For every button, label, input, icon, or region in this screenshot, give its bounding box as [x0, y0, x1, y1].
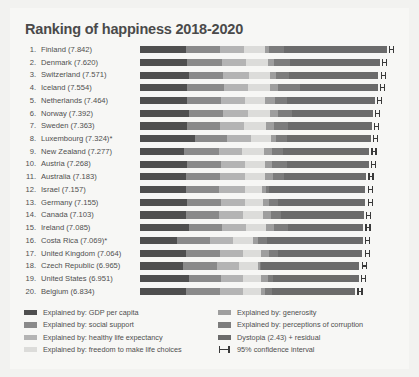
ranking-row: 8.Luxembourg (7.324)*: [10, 133, 409, 146]
bar-segment: [243, 275, 260, 282]
rank-number: 9.: [14, 147, 36, 157]
bar-segment: [140, 199, 187, 206]
chart-legend: Explained by: GDP per capitaExplained by…: [10, 307, 409, 367]
stacked-bar: [140, 224, 363, 231]
bar-segment: [245, 161, 265, 168]
confidence-interval-marker: [374, 123, 379, 130]
rank-number: 20.: [14, 287, 36, 297]
bar-segment: [140, 97, 187, 104]
bar-segment: [287, 161, 368, 168]
bar-segment: [274, 122, 288, 129]
bar-segment: [189, 110, 224, 117]
bar-container: [140, 135, 381, 142]
legend-label: Explained by: social support: [43, 319, 134, 330]
stacked-bar: [140, 288, 355, 295]
country-label: Denmark (7.620): [41, 58, 98, 68]
bar-container: [140, 275, 369, 282]
bar-segment: [210, 237, 233, 244]
bar-segment: [283, 148, 369, 155]
legend-label: Explained by: healthy life expectancy: [43, 332, 163, 343]
bar-segment: [261, 250, 270, 257]
bar-segment: [219, 186, 244, 193]
bar-segment: [223, 110, 248, 117]
confidence-interval-marker: [368, 173, 373, 180]
bar-segment: [269, 199, 278, 206]
bar-segment: [245, 97, 265, 104]
bar-segment: [251, 135, 271, 142]
ranking-row: 19.United States (6.951): [10, 273, 409, 286]
bar-segment: [186, 211, 220, 218]
stacked-bar: [140, 72, 378, 79]
bar-segment: [284, 46, 386, 53]
bar-segment: [186, 186, 219, 193]
bar-segment: [267, 237, 362, 244]
bar-segment: [289, 72, 378, 79]
bar-segment: [140, 288, 186, 295]
bar-segment: [187, 84, 224, 91]
bar-segment: [269, 46, 284, 53]
rank-number: 11.: [14, 172, 36, 182]
legend-swatch: [24, 322, 37, 327]
bar-segment: [140, 275, 189, 282]
rank-number: 3.: [14, 70, 36, 80]
ranking-row: 1.Finland (7.842): [10, 44, 409, 57]
rank-number: 16.: [14, 236, 36, 246]
rank-number: 1.: [14, 45, 36, 55]
bar-container: [140, 161, 379, 168]
bar-segment: [187, 122, 220, 129]
bar-segment: [242, 148, 263, 155]
bar-segment: [270, 84, 278, 91]
bar-segment: [189, 72, 223, 79]
legend-swatch: [218, 335, 231, 340]
bar-segment: [261, 262, 359, 269]
legend-swatch: [24, 310, 37, 315]
ranking-row: 4.Iceland (7.554): [10, 82, 409, 95]
bar-segment: [140, 237, 177, 244]
bar-segment: [186, 173, 220, 180]
bar-segment: [290, 59, 380, 66]
bar-segment: [265, 97, 275, 104]
rank-number: 18.: [14, 261, 36, 271]
bar-segment: [273, 275, 359, 282]
bar-segment: [244, 122, 266, 129]
country-label: Netherlands (7.464): [41, 96, 108, 106]
chart-card: Ranking of happiness 2018-2020 1.Finland…: [10, 8, 409, 369]
bar-segment: [140, 110, 189, 117]
bar-container: [140, 59, 390, 66]
rank-number: 10.: [14, 159, 36, 169]
bar-container: [140, 262, 369, 269]
bar-segment: [227, 135, 251, 142]
bar-segment: [288, 224, 363, 231]
rank-number: 19.: [14, 274, 36, 284]
stacked-bar: [140, 122, 372, 129]
stacked-bar: [140, 173, 366, 180]
bar-segment: [221, 161, 245, 168]
bar-segment: [186, 250, 220, 257]
confidence-interval-marker: [361, 275, 366, 282]
bar-segment: [272, 148, 283, 155]
bar-segment: [269, 250, 278, 257]
ranking-row: 17.United Kingdom (7.064): [10, 248, 409, 261]
legend-swatch: [24, 335, 37, 340]
ranking-row: 3.Switzerland (7.571): [10, 69, 409, 82]
bar-segment: [220, 122, 244, 129]
country-label: United States (6.951): [41, 274, 113, 284]
bar-segment: [269, 186, 365, 193]
bar-segment: [220, 173, 244, 180]
bar-segment: [140, 262, 183, 269]
bar-segment: [140, 161, 187, 168]
bar-container: [140, 46, 397, 53]
country-label: Luxembourg (7.324)*: [41, 134, 112, 144]
rank-number: 14.: [14, 210, 36, 220]
confidence-interval-marker: [368, 186, 373, 193]
confidence-interval-marker: [365, 224, 370, 231]
bar-segment: [221, 275, 243, 282]
stacked-bar: [140, 97, 375, 104]
bar-segment: [140, 135, 195, 142]
bar-segment: [186, 46, 221, 53]
bar-segment: [248, 84, 270, 91]
legend-label: Dystopia (2.43) + residual: [237, 332, 320, 343]
bar-segment: [220, 288, 244, 295]
ranking-row: 5.Netherlands (7.464): [10, 95, 409, 108]
bar-segment: [278, 84, 301, 91]
